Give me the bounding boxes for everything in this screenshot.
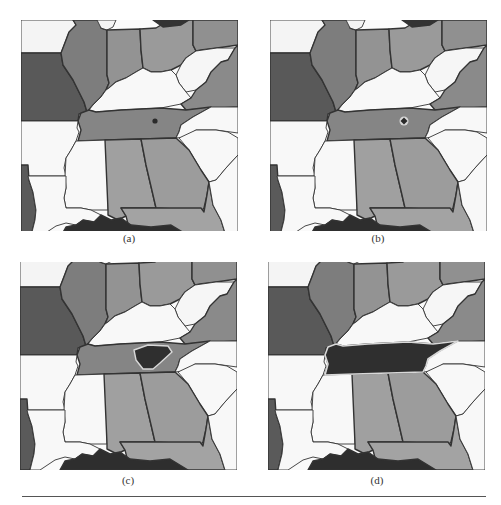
caption-b: (b): [358, 232, 398, 244]
map-panel-d: [268, 262, 485, 470]
state-pennsylvania: [440, 262, 485, 285]
state-pennsylvania: [442, 20, 487, 51]
map-a: [21, 20, 238, 231]
map-panel-c: [20, 262, 237, 470]
state-mississippi: [313, 140, 357, 210]
caption-d: (d): [357, 474, 397, 486]
state-pennsylvania: [192, 262, 237, 285]
state-mississippi: [311, 374, 355, 444]
state-mississippi: [63, 374, 107, 444]
map-c: [20, 262, 237, 470]
map-d: [268, 262, 485, 470]
map-b: [270, 20, 487, 231]
point-marker: [152, 118, 157, 123]
caption-c: (c): [108, 474, 148, 486]
state-mississippi: [64, 140, 108, 210]
caption-a: (a): [109, 232, 149, 244]
map-panel-a: [21, 20, 238, 231]
figure-bottom-rule: [22, 496, 486, 497]
state-pennsylvania: [193, 20, 238, 51]
map-panel-b: [270, 20, 487, 231]
